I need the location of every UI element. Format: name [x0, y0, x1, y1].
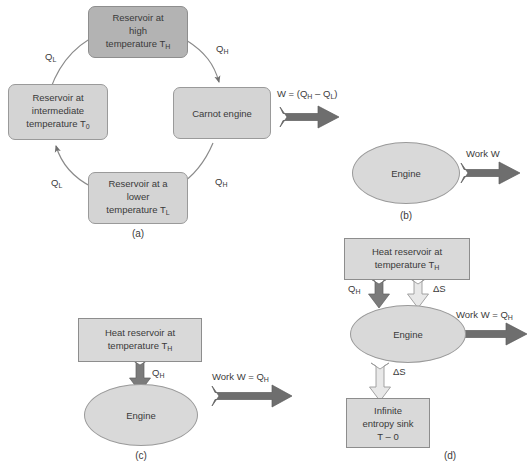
- block-arrow-work-b: [461, 162, 520, 184]
- block-arrow-entropy-out-d: [370, 363, 391, 401]
- carnot-engine-label: Carnot engine: [192, 107, 252, 120]
- panel-d-label-entropy-in: ΔS: [433, 283, 446, 295]
- panel-d-engine-label: Engine: [393, 329, 423, 340]
- reservoir-lower-line-3: temperature TL: [106, 203, 169, 219]
- reservoir-lower-line-2: lower: [127, 190, 150, 203]
- panel-a-reservoir-lower: Reservoir at a lower temperature TL: [88, 172, 188, 224]
- panel-d-engine: Engine: [350, 305, 466, 363]
- block-arrow-work-a: [280, 106, 339, 128]
- block-arrow-work-d: [456, 323, 527, 345]
- panel-b-caption: (b): [386, 210, 426, 221]
- panel-d-reservoir-line-1: Heat reservoir at: [372, 245, 442, 258]
- panel-c-caption: (c): [121, 450, 161, 461]
- block-arrow-entropy-in-d: [408, 278, 429, 308]
- panel-a-caption: (a): [118, 228, 158, 239]
- panel-b-label-work: Work W: [466, 148, 500, 160]
- panel-d-label-entropy-out: ΔS: [393, 366, 406, 378]
- panel-c-heat-reservoir: Heat reservoir at temperature TH: [78, 318, 202, 362]
- reservoir-high-line-1: Reservoir at: [112, 11, 163, 24]
- panel-a-label-qh-upper: QH: [216, 43, 228, 58]
- panel-d-sink-line-2: entropy sink: [362, 417, 413, 430]
- panel-a-label-ql-upper: QL: [45, 51, 56, 66]
- panel-b-engine: Engine: [352, 142, 460, 204]
- reservoir-lower-line-1: Reservoir at a: [108, 177, 167, 190]
- panel-d-reservoir-line-2: temperature TH: [375, 258, 440, 274]
- panel-d-label-work: Work W = QH: [456, 309, 513, 324]
- reservoir-high-line-2: high: [129, 24, 147, 37]
- panel-d-label-qh: QH: [348, 283, 360, 298]
- reservoir-intermediate-line-3: temperature T0: [26, 117, 89, 133]
- panel-c-reservoir-line-1: Heat reservoir at: [105, 326, 175, 339]
- reservoir-intermediate-line-2: intermediate: [32, 104, 84, 117]
- panel-c-engine-label: Engine: [126, 410, 156, 421]
- panel-a-reservoir-high: Reservoir at high temperature TH: [88, 6, 188, 58]
- block-arrow-work-c: [212, 385, 292, 407]
- panel-d-caption: (d): [430, 450, 470, 461]
- panel-a-label-ql-lower: QL: [51, 177, 62, 192]
- panel-d-sink-line-1: Infinite: [374, 404, 402, 417]
- arrow-qh-high-to-engine: [186, 40, 219, 82]
- reservoir-intermediate-line-1: Reservoir at: [32, 91, 83, 104]
- panel-c-engine: Engine: [84, 384, 198, 446]
- panel-c-label-work: Work W = QH: [212, 371, 269, 386]
- panel-a-label-qh-lower: QH: [215, 176, 227, 191]
- panel-b-engine-label: Engine: [391, 168, 421, 179]
- panel-a-carnot-engine: Carnot engine: [173, 87, 271, 139]
- panel-d-sink-line-3: T – 0: [377, 430, 398, 443]
- panel-a-label-work: W = (QH – QL): [277, 88, 337, 103]
- thermodynamics-figure: Reservoir at high temperature TH Reservo…: [0, 0, 532, 469]
- arrow-overlay: [0, 0, 532, 469]
- panel-d-heat-reservoir: Heat reservoir at temperature TH: [344, 238, 470, 280]
- block-arrow-qh-d: [369, 278, 390, 308]
- panel-a-reservoir-intermediate: Reservoir at intermediate temperature T0: [8, 84, 108, 140]
- panel-d-entropy-sink: Infinite entropy sink T – 0: [346, 398, 430, 448]
- panel-c-label-qh: QH: [152, 367, 164, 382]
- panel-c-reservoir-line-2: temperature TH: [108, 339, 173, 355]
- reservoir-high-line-3: temperature TH: [106, 37, 171, 53]
